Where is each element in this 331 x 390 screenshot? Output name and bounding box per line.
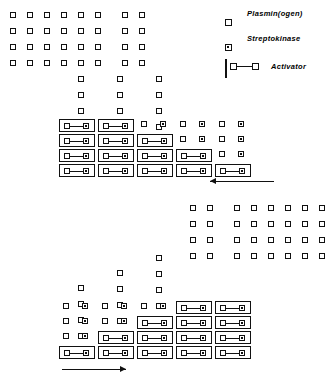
plasminogen-square <box>219 136 225 142</box>
plasminogen-square <box>268 237 274 243</box>
plasminogen-square <box>117 92 123 98</box>
streptokinase-square <box>239 320 245 326</box>
plasminogen-square <box>139 60 145 66</box>
streptokinase-square <box>122 123 128 129</box>
plasminogen-square <box>319 221 325 227</box>
activator-complex <box>215 331 251 344</box>
legend-label-plasminogen: Plasmin(ogen) <box>247 9 303 18</box>
activator-plasminogen-square <box>230 63 237 70</box>
plasminogen-square <box>156 255 162 261</box>
plasminogen-square <box>44 44 50 50</box>
plasminogen-square <box>251 205 257 211</box>
plasminogen-square <box>122 28 128 34</box>
bond-line <box>109 353 122 354</box>
bond-line <box>109 141 122 142</box>
plasminogen-square <box>190 205 196 211</box>
plasminogen-square <box>78 92 84 98</box>
streptokinase-square <box>122 168 128 174</box>
activator-complex <box>176 346 212 359</box>
plasminogen-square <box>302 205 308 211</box>
streptokinase-square <box>200 335 206 341</box>
plasminogen-square <box>78 44 84 50</box>
plasminogen-square <box>180 136 186 142</box>
bond-line <box>187 308 200 309</box>
streptokinase-square <box>200 320 206 326</box>
streptokinase-square <box>239 335 245 341</box>
plasminogen-square <box>63 333 69 339</box>
activator-complex <box>176 331 212 344</box>
plasminogen-square <box>207 221 213 227</box>
plasminogen-square <box>141 121 147 127</box>
streptokinase-square <box>121 303 127 309</box>
plasminogen-square <box>10 28 16 34</box>
streptokinase-square <box>82 303 88 309</box>
bond-line <box>226 338 239 339</box>
activator-complex <box>98 134 134 147</box>
streptokinase-square <box>83 123 89 129</box>
plasminogen-square <box>219 121 225 127</box>
plasminogen-square <box>102 318 108 324</box>
plasminogen-square <box>234 253 240 259</box>
activator-complex <box>137 134 173 147</box>
plasminogen-square <box>285 221 291 227</box>
streptokinase-square <box>122 138 128 144</box>
plasminogen-square <box>102 303 108 309</box>
streptokinase-square <box>200 350 206 356</box>
plasminogen-square <box>63 303 69 309</box>
plasminogen-square <box>44 28 50 34</box>
bond-line <box>187 353 200 354</box>
streptokinase-square <box>200 153 206 159</box>
bond-line <box>109 126 122 127</box>
streptokinase-square <box>161 153 167 159</box>
plasminogen-square <box>139 44 145 50</box>
plasminogen-square <box>61 44 67 50</box>
plasminogen-square <box>156 92 162 98</box>
plasminogen-square <box>219 151 225 157</box>
activator-complex <box>137 316 173 329</box>
plasminogen-square <box>78 76 84 82</box>
bond-line <box>148 338 161 339</box>
plasminogen-square <box>207 205 213 211</box>
activator-complex <box>98 331 134 344</box>
plasminogen-square <box>302 237 308 243</box>
bond-line <box>70 141 83 142</box>
activator-complex <box>59 164 95 177</box>
streptokinase-square <box>239 305 245 311</box>
plasminogen-square <box>234 221 240 227</box>
plasminogen-square <box>190 237 196 243</box>
plasminogen-square <box>268 221 274 227</box>
bond-line <box>187 171 200 172</box>
plasminogen-square <box>251 253 257 259</box>
plasminogen-square <box>44 12 50 18</box>
legend-item-plasminogen: Plasmin(ogen) <box>225 10 331 22</box>
activator-complex <box>59 149 95 162</box>
plasminogen-square <box>156 76 162 82</box>
activator-streptokinase-square <box>252 63 259 70</box>
plasminogen-square <box>10 12 16 18</box>
plasminogen-square <box>44 60 50 66</box>
plasminogen-square <box>61 12 67 18</box>
open-square-icon <box>225 12 232 30</box>
plasminogen-square <box>156 287 162 293</box>
legend: Plasmin(ogen) Streptokinase Activator <box>225 10 331 87</box>
bond-line <box>187 156 200 157</box>
reaction-arrow-right <box>62 366 126 373</box>
plasminogen-square <box>27 28 33 34</box>
bond-line <box>148 353 161 354</box>
plasminogen-square <box>251 221 257 227</box>
plasminogen-square <box>139 12 145 18</box>
streptokinase-square <box>122 335 128 341</box>
plasminogen-square <box>190 221 196 227</box>
activator-bond-line <box>237 66 252 67</box>
legend-item-activator: Activator <box>225 60 331 74</box>
plasminogen-square <box>319 205 325 211</box>
plasminogen-square <box>268 253 274 259</box>
activator-complex <box>176 301 212 314</box>
streptokinase-square <box>238 136 244 142</box>
plasminogen-square <box>27 12 33 18</box>
plasminogen-square <box>27 44 33 50</box>
plasminogen-square <box>63 318 69 324</box>
plasminogen-square <box>117 76 123 82</box>
bond-line <box>109 156 122 157</box>
plasminogen-square <box>285 237 291 243</box>
